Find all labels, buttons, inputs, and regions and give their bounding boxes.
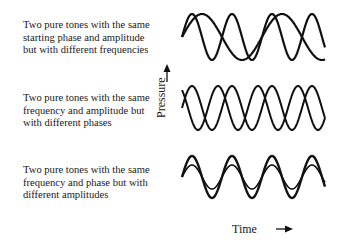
right-arrow-icon	[276, 226, 293, 233]
waveforms	[182, 14, 325, 198]
waveform-canvas	[0, 0, 342, 246]
sine-wave-different-amplitudes	[182, 156, 325, 198]
sine-wave-different-phases	[182, 86, 325, 130]
sine-wave-different-frequencies	[182, 14, 325, 60]
y-axis-label: Pressure	[154, 58, 169, 118]
x-axis-label: Time	[232, 222, 257, 237]
